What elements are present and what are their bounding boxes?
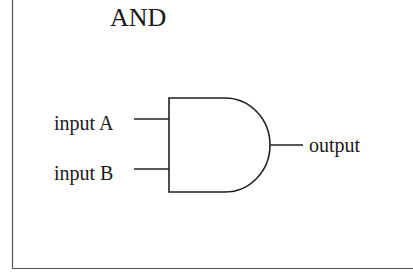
and-gate-diagram: AND input A input B output	[0, 0, 413, 273]
input-a-label: input A	[54, 112, 114, 135]
diagram-title: AND	[110, 3, 166, 32]
input-b-label: input B	[54, 162, 113, 185]
and-gate-symbol	[169, 98, 270, 192]
output-label: output	[309, 134, 361, 157]
